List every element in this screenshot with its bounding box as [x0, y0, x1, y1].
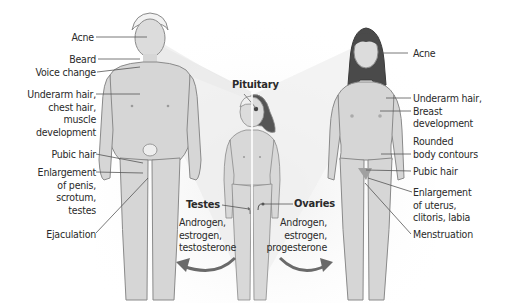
male-label-voice-change: Voice change — [36, 66, 96, 79]
female-label-acne: Acne — [413, 47, 435, 60]
female-label-underarm-breast: Underarm hair, Breast development — [413, 92, 482, 130]
testes-label: Testes — [186, 199, 220, 212]
puberty-diagram: Acne Beard Voice change Underarm hair, c… — [0, 0, 505, 303]
pituitary-label: Pituitary — [232, 79, 279, 92]
male-label-underarm-chest-muscle: Underarm hair, chest hair, muscle develo… — [27, 88, 96, 138]
male-label-acne: Acne — [72, 31, 94, 44]
male-hormones-label: Androgen, estrogen, testosterone — [179, 216, 236, 254]
male-label-beard: Beard — [69, 53, 96, 66]
female-hormones-label: Androgen, estrogen, progesterone — [266, 216, 327, 254]
female-label-menstruation: Menstruation — [413, 228, 473, 241]
ovaries-label: Ovaries — [294, 198, 335, 211]
male-label-ejaculation: Ejaculation — [46, 228, 96, 241]
female-label-pubic-hair: Pubic hair — [413, 165, 458, 178]
male-label-enlargement: Enlargement of penis, scrotum, testes — [38, 166, 96, 216]
female-label-rounded-contours: Rounded body contours — [413, 135, 478, 160]
male-label-pubic-hair: Pubic hair — [51, 148, 96, 161]
female-label-enlargement: Enlargement of uterus, clitoris, labia — [413, 186, 471, 224]
